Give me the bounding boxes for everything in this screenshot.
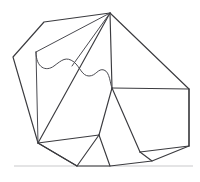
geometric-figure xyxy=(0,0,200,182)
figure-container xyxy=(0,0,200,182)
